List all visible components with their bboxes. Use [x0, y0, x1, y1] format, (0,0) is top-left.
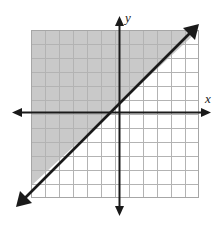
x-axis-label: x [204, 91, 211, 106]
y-axis-arrow-down [115, 206, 124, 216]
y-axis-arrow-up [115, 16, 124, 26]
inequality-graph: x y [0, 0, 223, 229]
y-axis-label: y [123, 10, 131, 25]
x-axis-arrow-right [201, 108, 211, 117]
x-axis-arrow-left [12, 108, 22, 117]
coordinate-plane: x y [0, 0, 223, 229]
